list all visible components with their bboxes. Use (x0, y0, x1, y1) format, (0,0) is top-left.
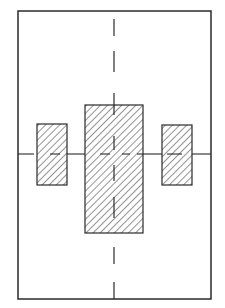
diagram-canvas (0, 0, 225, 308)
right-block (162, 125, 192, 185)
technical-drawing (0, 0, 225, 308)
